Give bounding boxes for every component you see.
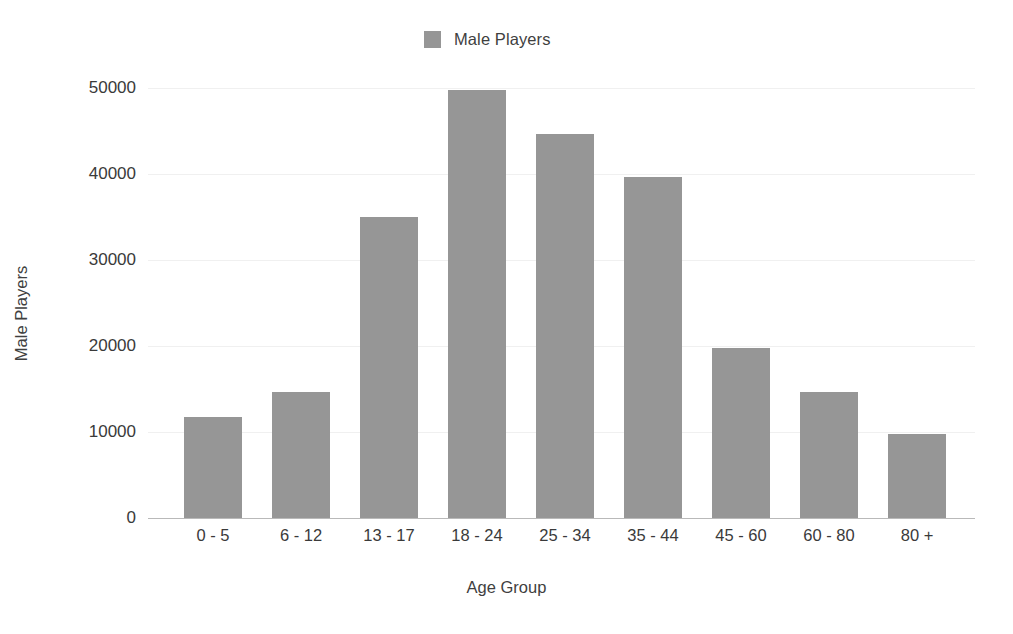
legend-label-male-players: Male Players — [454, 30, 551, 49]
y-axis-tick-label: 0 — [46, 508, 136, 528]
y-axis-tick-label: 10000 — [46, 422, 136, 442]
bar — [712, 348, 770, 518]
y-axis-tick-labels: 01000020000300004000050000 — [40, 0, 136, 634]
bar — [624, 177, 682, 518]
bar-series-male-players — [148, 88, 975, 518]
bar — [536, 134, 594, 518]
x-axis-title: Age Group — [0, 578, 1013, 597]
bar — [272, 392, 330, 518]
legend-swatch-male-players — [424, 31, 441, 48]
bar — [888, 434, 946, 518]
bar-chart: Male Players 01000020000300004000050000 … — [0, 0, 1013, 634]
x-axis-tick-label: 80 + — [862, 526, 972, 545]
bar — [360, 217, 418, 518]
chart-legend: Male Players — [424, 30, 551, 49]
x-axis-line — [148, 518, 975, 519]
y-axis-tick-label: 20000 — [46, 336, 136, 356]
y-axis-title: Male Players — [12, 234, 31, 394]
plot-area — [148, 88, 975, 518]
bar — [184, 417, 242, 518]
y-axis-tick-label: 40000 — [46, 164, 136, 184]
y-axis-tick-label: 50000 — [46, 78, 136, 98]
bar — [448, 90, 506, 518]
x-axis-tick-labels: 0 - 56 - 1213 - 1718 - 2425 - 3435 - 444… — [148, 526, 975, 556]
bar — [800, 392, 858, 518]
y-axis-tick-label: 30000 — [46, 250, 136, 270]
